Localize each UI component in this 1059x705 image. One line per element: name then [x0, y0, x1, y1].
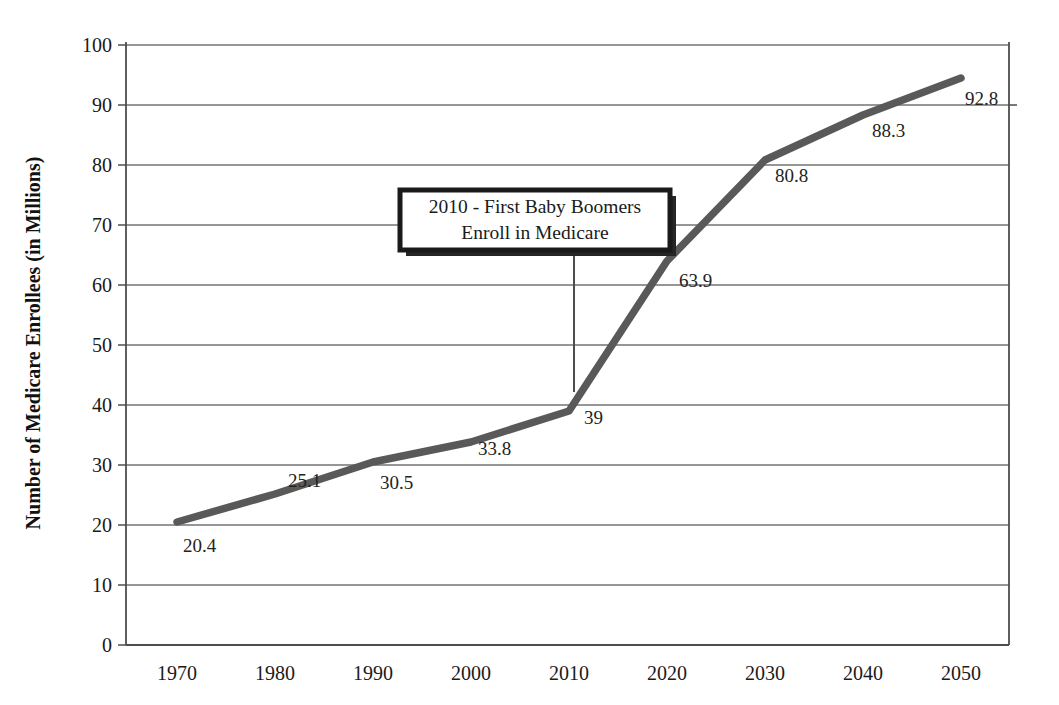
y-tick-label-70: 70: [92, 214, 112, 236]
y-tick-label-40: 40: [92, 394, 112, 416]
y-axis-title: Number of Medicare Enrollees (in Million…: [22, 157, 45, 530]
x-tick-label-1980: 1980: [255, 662, 295, 684]
data-label-1970: 20.4: [183, 535, 217, 556]
annotation-line-1: 2010 - First Baby Boomers: [429, 196, 641, 217]
data-label-2020: 63.9: [679, 270, 712, 291]
x-axis-tick-labels: 1970 1980 1990 2000 2010 2020 2030 2040 …: [157, 662, 981, 684]
x-tick-label-1990: 1990: [353, 662, 393, 684]
annotation-line-2: Enroll in Medicare: [461, 222, 608, 243]
data-label-2010: 39: [584, 407, 603, 428]
y-tick-label-100: 100: [82, 34, 112, 56]
y-tick-label-0: 0: [102, 634, 112, 656]
y-tick-label-10: 10: [92, 574, 112, 596]
x-tick-label-2050: 2050: [941, 662, 981, 684]
y-axis-tick-labels: 100 90 80 70 60 50 40 30 20 10 0: [82, 34, 112, 656]
data-label-2040: 88.3: [872, 120, 905, 141]
y-tick-label-30: 30: [92, 454, 112, 476]
x-tick-label-2000: 2000: [451, 662, 491, 684]
y-tick-label-90: 90: [92, 94, 112, 116]
medicare-enrollment-chart: 100 90 80 70 60 50 40 30 20 10 0 Number …: [0, 0, 1059, 705]
y-tick-label-80: 80: [92, 154, 112, 176]
data-label-2000: 33.8: [478, 438, 511, 459]
data-label-2050: 92.8: [965, 88, 998, 109]
y-tick-label-60: 60: [92, 274, 112, 296]
x-tick-label-1970: 1970: [157, 662, 197, 684]
x-tick-label-2020: 2020: [647, 662, 687, 684]
y-tick-label-20: 20: [92, 514, 112, 536]
data-label-2030: 80.8: [775, 165, 808, 186]
data-label-1990: 30.5: [380, 472, 413, 493]
y-tick-label-50: 50: [92, 334, 112, 356]
x-tick-label-2030: 2030: [745, 662, 785, 684]
data-label-1980: 25.1: [288, 470, 321, 491]
chart-canvas: 100 90 80 70 60 50 40 30 20 10 0 Number …: [0, 0, 1059, 705]
annotation-callout: 2010 - First Baby Boomers Enroll in Medi…: [400, 190, 676, 256]
x-tick-label-2010: 2010: [549, 662, 589, 684]
x-tick-label-2040: 2040: [843, 662, 883, 684]
